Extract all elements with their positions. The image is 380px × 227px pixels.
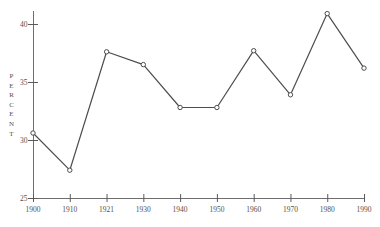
data-point-1940 bbox=[178, 105, 182, 109]
y-tick-label-25: 25 bbox=[20, 194, 28, 203]
data-point-1921 bbox=[104, 50, 108, 54]
y-tick-label-30: 30 bbox=[20, 136, 28, 145]
x-tick-label-1960: 1960 bbox=[246, 205, 261, 214]
x-tick-label-1980: 1980 bbox=[320, 205, 335, 214]
y-axis-label-letter-6: N bbox=[9, 120, 14, 128]
data-point-1930 bbox=[141, 62, 145, 66]
x-tick-label-1990: 1990 bbox=[357, 205, 372, 214]
data-point-1960 bbox=[252, 49, 256, 53]
x-tick-label-1930: 1930 bbox=[136, 205, 151, 214]
x-tick-label-1900: 1900 bbox=[26, 205, 41, 214]
y-axis-label-letter-4: C bbox=[9, 101, 14, 109]
x-tick-label-1970: 1970 bbox=[283, 205, 298, 214]
x-tick-label-1910: 1910 bbox=[62, 205, 77, 214]
y-tick-label-35: 35 bbox=[20, 78, 28, 87]
scanned-line-chart-figure: 2530354019001910192119301940195019601970… bbox=[0, 0, 380, 227]
y-tick-label-40: 40 bbox=[20, 20, 28, 29]
y-axis-label-letter-5: E bbox=[9, 110, 13, 118]
percent-by-decade-line-chart: 2530354019001910192119301940195019601970… bbox=[0, 0, 380, 227]
y-axis-label-letter-2: E bbox=[9, 82, 13, 90]
data-line bbox=[33, 14, 364, 171]
y-axis-label-letter-7: T bbox=[9, 130, 14, 138]
x-tick-label-1921: 1921 bbox=[99, 205, 114, 214]
x-tick-label-1950: 1950 bbox=[209, 205, 224, 214]
y-axis-label-letter-1: P bbox=[10, 72, 14, 80]
data-point-1990 bbox=[362, 66, 366, 70]
y-axis-label-letter-3: R bbox=[9, 91, 14, 99]
data-point-1910 bbox=[68, 168, 72, 172]
x-tick-label-1940: 1940 bbox=[173, 205, 188, 214]
data-point-1970 bbox=[288, 93, 292, 97]
data-point-1900 bbox=[31, 131, 35, 135]
data-point-1950 bbox=[215, 105, 219, 109]
data-point-1980 bbox=[325, 11, 329, 15]
